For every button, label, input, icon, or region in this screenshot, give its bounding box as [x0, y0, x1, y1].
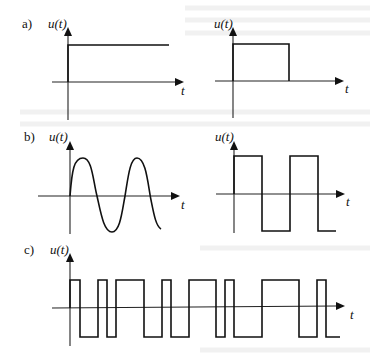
signal-figure: a) u(t) t u(t) t b) u(t) t u(t) t [0, 0, 373, 363]
x-axis-label: t [181, 197, 185, 212]
panel-label-a: a) [22, 16, 32, 31]
x-axis-arrow-icon [336, 190, 345, 198]
x-axis-label: t [350, 307, 354, 322]
y-axis-label: u(t) [214, 16, 233, 31]
sine-signal [70, 158, 161, 232]
x-axis-label: t [345, 81, 349, 96]
x-axis-arrow-icon [336, 302, 345, 310]
x-axis [52, 306, 336, 308]
y-axis-label: u(t) [48, 16, 67, 31]
panel-b-right: u(t) t [215, 129, 350, 233]
panel-a-left: a) u(t) t [22, 16, 185, 120]
x-axis-label: t [346, 194, 350, 209]
x-axis-label: t [181, 83, 185, 98]
y-axis-label: u(t) [49, 129, 68, 144]
pulse-signal [233, 44, 289, 81]
random-binary-signal [70, 280, 340, 337]
panel-c: c) u(t) t [24, 242, 354, 346]
y-axis-label: u(t) [50, 242, 69, 257]
panel-b-left: b) u(t) t [24, 129, 185, 234]
x-axis-arrow-icon [335, 77, 344, 85]
panel-label-b: b) [24, 129, 35, 144]
panel-label-c: c) [24, 242, 34, 257]
step-signal [68, 45, 169, 82]
x-axis-arrow-icon [171, 192, 180, 200]
y-axis-label: u(t) [215, 129, 234, 144]
